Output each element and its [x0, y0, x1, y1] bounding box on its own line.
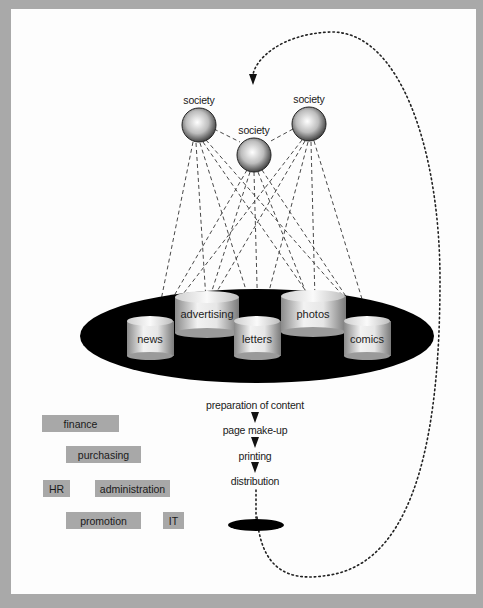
dept-purchasing: purchasing	[66, 446, 141, 463]
step-distribution: distribution	[231, 475, 279, 487]
arrow-down-icon	[251, 462, 259, 473]
dept-finance: finance	[42, 415, 119, 432]
arrow-down-icon	[251, 437, 259, 448]
distribution-ellipse	[228, 519, 284, 531]
step-page-make-up: page make-up	[223, 424, 288, 436]
society-sphere-right	[292, 107, 326, 141]
dept-administration: administration	[95, 480, 170, 497]
society-sphere-center	[237, 138, 271, 172]
society-label-right: society	[293, 93, 324, 105]
society-label-left: society	[183, 94, 214, 106]
arrow-down-icon	[249, 74, 257, 85]
dept-it: IT	[163, 512, 184, 529]
section-label-news: news	[137, 333, 163, 345]
dept-promotion: promotion	[66, 512, 141, 529]
section-label-photos: photos	[296, 308, 329, 320]
section-label-letters: letters	[242, 333, 272, 345]
society-sphere-left	[182, 108, 216, 142]
society-label-center: society	[238, 124, 269, 136]
section-label-comics: comics	[350, 333, 384, 345]
arrow-down-icon	[251, 412, 259, 423]
step-printing: printing	[239, 450, 272, 462]
dept-hr: HR	[43, 480, 70, 497]
step-preparation-of-content: preparation of content	[206, 399, 304, 411]
section-label-advertising: advertising	[180, 308, 233, 320]
